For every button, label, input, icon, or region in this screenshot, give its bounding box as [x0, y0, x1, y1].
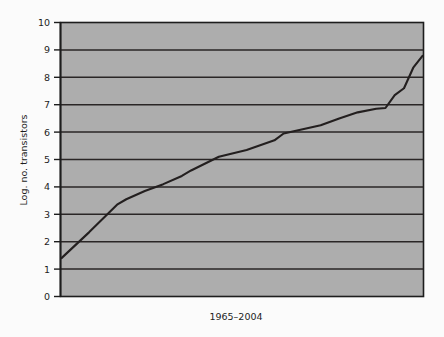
x-axis-label: 1965–2004	[209, 311, 262, 322]
y-tick-label-7: 7	[44, 99, 50, 110]
y-tick-label-3: 3	[44, 209, 50, 220]
y-tick-label-6: 6	[44, 127, 50, 138]
y-tick-label-5: 5	[44, 154, 50, 165]
y-tick-label-2: 2	[44, 236, 50, 247]
y-axis-title: Log. no. transistors	[18, 114, 29, 205]
y-tick-label-1: 1	[44, 264, 50, 275]
y-tick-label-8: 8	[44, 72, 50, 83]
y-tick-label-10: 10	[38, 17, 50, 28]
transistor-growth-line-chart: 10 9 8 7 6 5 4 3 2 1 0 Log. no. transist…	[0, 0, 444, 337]
y-tick-label-9: 9	[44, 44, 50, 55]
y-tick-label-4: 4	[44, 181, 50, 192]
chart-figure: 10 9 8 7 6 5 4 3 2 1 0 Log. no. transist…	[0, 0, 444, 337]
y-tick-label-0: 0	[44, 291, 50, 302]
